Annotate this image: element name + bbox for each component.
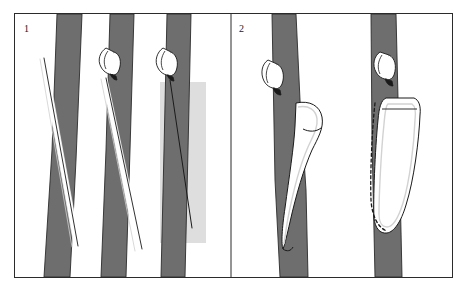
panel-label-1: 1 [24, 24, 29, 34]
figure-frame [14, 13, 453, 278]
panel-label-2: 2 [239, 24, 244, 34]
illustration-root: 1 2 [0, 0, 467, 300]
